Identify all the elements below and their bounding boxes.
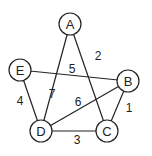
node-label: C <box>102 124 111 139</box>
node-c: C <box>96 120 118 142</box>
edge-weight-label: 6 <box>75 95 82 109</box>
node-d: D <box>30 120 52 142</box>
node-label: A <box>66 17 75 32</box>
edge-weight-label: 3 <box>74 133 81 147</box>
edge-weight-label: 4 <box>17 94 24 108</box>
node-e: E <box>9 59 31 81</box>
edge-a-d <box>41 24 70 131</box>
node-label: D <box>36 124 45 139</box>
edge-weight-label: 5 <box>69 62 76 76</box>
edges-group <box>20 24 128 131</box>
edge-weight-label: 2 <box>95 49 102 63</box>
graph-diagram: 2756143 ABCDE <box>0 0 152 156</box>
node-label: B <box>124 74 133 89</box>
nodes-group: ABCDE <box>9 13 139 142</box>
node-b: B <box>117 70 139 92</box>
edge-weight-label: 1 <box>126 101 133 115</box>
node-label: E <box>16 63 25 78</box>
edge-weight-label: 7 <box>49 87 56 101</box>
node-a: A <box>59 13 81 35</box>
